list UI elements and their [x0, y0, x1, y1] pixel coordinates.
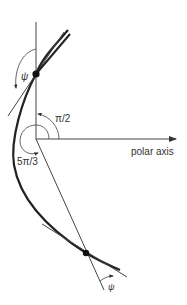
curve-point-top — [32, 70, 39, 77]
radial-line-5pi3 — [36, 139, 104, 290]
tangent-line-top-bold — [36, 34, 70, 74]
curve-point-bottom — [83, 250, 89, 256]
psi-label-top: ψ — [21, 71, 29, 82]
half-pi-label: π/2 — [55, 113, 71, 124]
psi-label-bottom: ψ — [108, 282, 115, 292]
polar-curve — [13, 30, 120, 270]
polar-tangent-diagram: ψ π/2 5π/3 polar axis ψ — [0, 0, 187, 305]
polar-axis-label: polar axis — [131, 146, 174, 157]
five-pi-third-label: 5π/3 — [17, 156, 38, 167]
psi-angle-arc-bottom — [100, 276, 113, 281]
